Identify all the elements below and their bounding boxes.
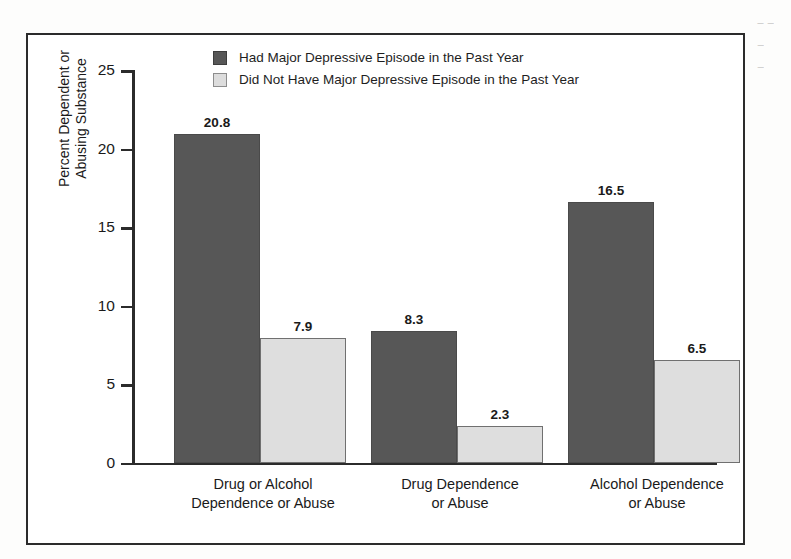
margin-bleed-text-3: – [757,60,764,72]
bar-no-mde-alcohol[interactable]: 6.5 [654,360,740,463]
y-tick-20: 20 [121,149,132,152]
x-axis-line [132,463,717,466]
scanned-page: – – – – Had Major Depressive Episode in … [0,0,791,559]
y-tick-label-25: 25 [98,61,115,79]
bar-group-drug: 8.3 2.3 [371,68,549,463]
y-tick-label-0: 0 [106,453,115,471]
x-category-label-drug: Drug Dependence or Abuse [371,475,549,513]
y-axis-title-line-2: Abusing Substance [73,58,89,179]
y-tick-25: 25 [121,70,132,73]
bar-value-no-mde-drug-or-alcohol: 7.9 [294,319,313,334]
x-category-label-drug-or-alcohol: Drug or Alcohol Dependence or Abuse [174,475,352,513]
bar-had-mde-alcohol[interactable]: 16.5 [568,202,654,463]
y-tick-0: 0 [121,463,132,466]
bar-group-drug-or-alcohol: 20.8 7.9 [174,68,352,463]
y-tick-5: 5 [121,384,132,387]
x-category-label-drug-line-1: Drug Dependence [401,476,519,492]
x-category-label-alcohol-line-2: or Abuse [628,495,685,511]
x-category-label-alcohol-line-1: Alcohol Dependence [590,476,724,492]
y-tick-10: 10 [121,306,132,309]
y-tick-label-15: 15 [98,218,115,236]
y-axis-line [132,70,135,465]
y-tick-label-20: 20 [98,139,115,157]
legend-swatch-dark-icon [213,51,227,65]
bar-group-alcohol: 16.5 6.5 [568,68,746,463]
x-category-label-drug-line-2: or Abuse [431,495,488,511]
bar-value-had-mde-drug-or-alcohol: 20.8 [204,115,230,130]
bar-value-no-mde-alcohol: 6.5 [688,341,707,356]
bar-no-mde-drug[interactable]: 2.3 [457,426,543,462]
y-axis-title: Percent Dependent or Abusing Substance [56,50,90,187]
y-tick-label-10: 10 [98,296,115,314]
margin-bleed-text-1: – – [757,16,774,28]
y-tick-label-5: 5 [106,375,115,393]
bar-no-mde-drug-or-alcohol[interactable]: 7.9 [260,338,346,463]
y-axis-title-line-1: Percent Dependent or [56,50,72,187]
chart-frame: Had Major Depressive Episode in the Past… [26,33,745,545]
bar-had-mde-drug[interactable]: 8.3 [371,331,457,462]
legend-item-had-mde: Had Major Depressive Episode in the Past… [213,47,733,68]
x-category-label-drug-or-alcohol-line-1: Drug or Alcohol [213,476,312,492]
bar-value-had-mde-drug: 8.3 [405,312,424,327]
margin-bleed-text-2: – [757,38,764,50]
plot-area: 25 20 15 10 5 0 20.8 [132,70,717,465]
bar-value-had-mde-alcohol: 16.5 [598,183,624,198]
bar-had-mde-drug-or-alcohol[interactable]: 20.8 [174,134,260,463]
bar-value-no-mde-drug: 2.3 [491,407,510,422]
x-category-label-drug-or-alcohol-line-2: Dependence or Abuse [191,495,335,511]
legend-label-had-mde: Had Major Depressive Episode in the Past… [239,50,523,65]
x-category-label-alcohol: Alcohol Dependence or Abuse [568,475,746,513]
y-tick-15: 15 [121,227,132,230]
